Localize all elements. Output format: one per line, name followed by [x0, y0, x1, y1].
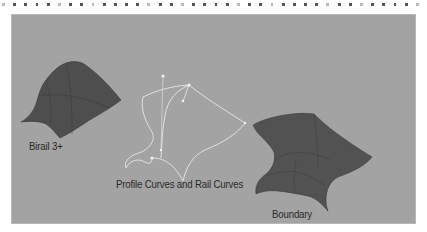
profile-rail-curves[interactable]: [125, 76, 245, 181]
label-boundary: Boundary: [272, 208, 312, 220]
label-profile-curves: Profile Curves and Rail Curves: [116, 178, 243, 190]
boundary-surface[interactable]: [253, 113, 372, 211]
label-birail: Birail 3+: [29, 140, 63, 152]
birail-surface[interactable]: [21, 62, 121, 138]
viewport-scene: [0, 0, 427, 232]
